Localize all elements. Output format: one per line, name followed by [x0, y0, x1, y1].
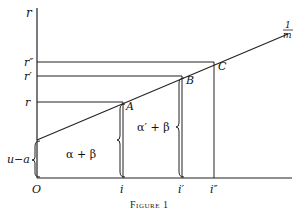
- line-label-numerator: 1: [285, 20, 291, 30]
- line-label-denominator: m: [283, 30, 292, 40]
- origin-label: O: [32, 183, 41, 196]
- point-a-label: A: [125, 100, 134, 113]
- y-axis-label: r: [26, 6, 33, 20]
- region-label-alpha-beta: α + β: [66, 148, 96, 161]
- caption-number: 1: [163, 199, 169, 210]
- x-tick-i2: i″: [210, 183, 219, 196]
- x-tick-i: i: [120, 183, 124, 196]
- y-tick-r1: r′: [24, 70, 32, 83]
- intercept-label: u−a: [7, 153, 30, 166]
- alpha-beta-brace: [117, 104, 125, 177]
- y-tick-r: r: [25, 96, 31, 109]
- figure-caption: Figure 1: [130, 199, 168, 210]
- intercept-brace: [32, 141, 40, 177]
- point-b-label: B: [185, 74, 194, 87]
- point-c-label: C: [218, 60, 227, 73]
- alpha-prime-beta-brace: [176, 78, 184, 177]
- figure-diagram: r r″ r′ r O i i′ i″ A B C 1 m u−a α + β …: [0, 0, 296, 213]
- y-tick-r2: r″: [24, 56, 34, 69]
- caption-prefix: Figure: [130, 199, 160, 210]
- region-label-alpha-prime-beta: α′ + β: [137, 121, 170, 134]
- x-tick-i1: i′: [178, 183, 185, 196]
